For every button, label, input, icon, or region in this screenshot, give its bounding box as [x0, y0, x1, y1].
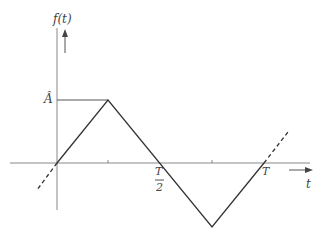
- t-arrow-icon: [305, 167, 313, 173]
- half-period-numerator: T: [155, 166, 162, 177]
- triangle-wave-chart: [0, 0, 325, 242]
- half-period-denominator: 2: [156, 182, 163, 193]
- period-label: T: [262, 166, 269, 177]
- x-axis-label: t: [306, 178, 311, 190]
- waveform-extension-left: [37, 163, 57, 190]
- y-axis-label: f(t): [53, 13, 72, 25]
- amplitude-label: Â: [44, 93, 53, 105]
- y-arrow-icon: [62, 29, 68, 37]
- waveform-extension-right: [264, 132, 288, 163]
